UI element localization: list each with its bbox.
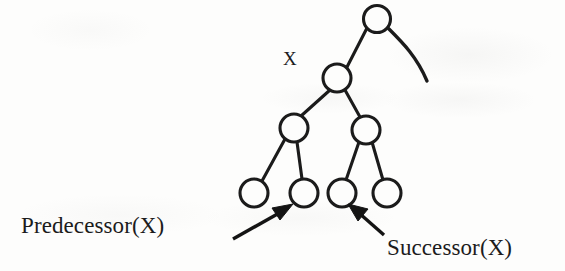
edge-right-to-leaf4 — [372, 142, 383, 180]
edge-x-to-right — [345, 90, 360, 117]
leaf-node-4 — [373, 179, 401, 207]
leaf-node-1 — [240, 179, 268, 207]
successor-arrow — [348, 204, 384, 235]
edge-left-to-predecessor — [297, 142, 302, 179]
node-x-label: X — [283, 49, 297, 68]
node-x — [323, 64, 351, 92]
predecessor-label: Predecessor(X) — [21, 214, 164, 237]
edge-right-to-successor — [346, 142, 359, 180]
edge-x-to-left — [301, 90, 330, 116]
root-node — [364, 6, 391, 33]
edge-left-to-leaf1 — [262, 139, 285, 181]
root-parent-curve — [389, 29, 428, 82]
right-child-node — [352, 116, 380, 144]
predecessor-arrow — [233, 204, 293, 239]
successor-label: Successor(X) — [387, 236, 512, 259]
predecessor-leaf-node — [290, 179, 318, 207]
edge-root-to-x — [347, 28, 367, 67]
diagram-canvas: X Predecessor(X) Successor(X) — [0, 0, 565, 271]
successor-leaf-node — [328, 179, 356, 207]
left-child-node — [280, 114, 308, 142]
